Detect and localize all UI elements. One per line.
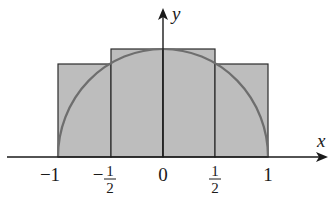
rectangle-1 bbox=[58, 64, 111, 157]
tick-label-neg-half: − 1 2 bbox=[93, 163, 116, 196]
rectangle-2 bbox=[111, 49, 163, 157]
svg-text:2: 2 bbox=[211, 180, 219, 196]
rectangle-3 bbox=[163, 49, 215, 157]
svg-text:−: − bbox=[93, 164, 104, 185]
svg-text:1: 1 bbox=[211, 163, 219, 179]
tick-label-1: 1 bbox=[263, 164, 273, 185]
x-axis-label: x bbox=[316, 130, 326, 151]
tick-label-half: 1 2 bbox=[209, 163, 221, 196]
y-axis-label: y bbox=[170, 3, 181, 24]
tick-label-neg1: −1 bbox=[40, 164, 60, 185]
rectangle-4 bbox=[215, 64, 268, 157]
svg-text:1: 1 bbox=[106, 163, 114, 179]
riemann-sum-diagram: x y −1 − 1 2 0 1 2 1 bbox=[0, 0, 333, 197]
svg-text:2: 2 bbox=[106, 180, 114, 196]
tick-label-zero: 0 bbox=[158, 164, 168, 185]
